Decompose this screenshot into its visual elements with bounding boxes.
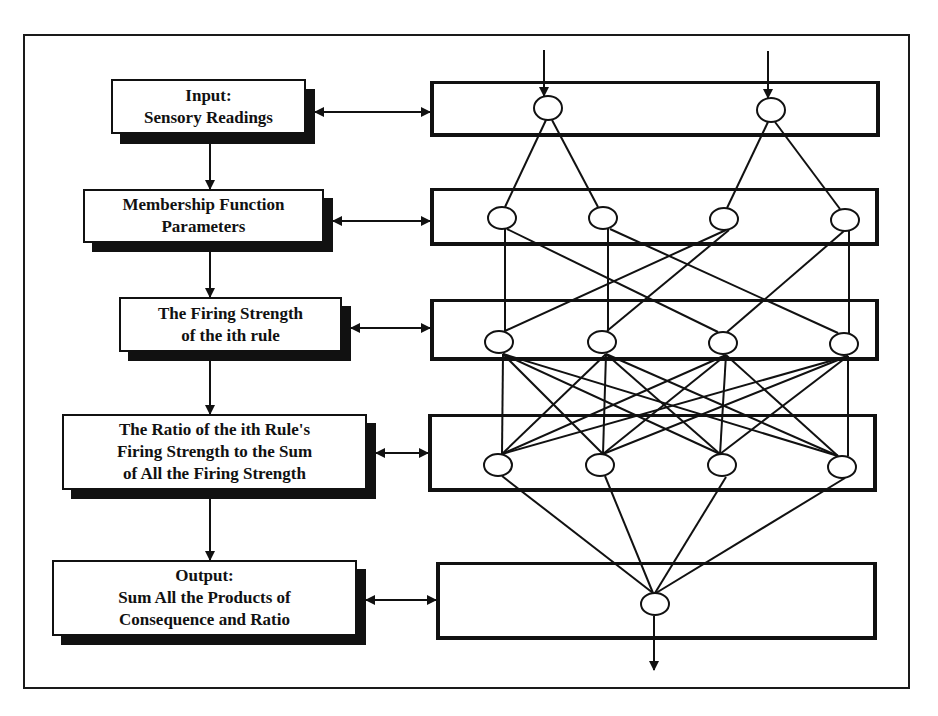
layer-4-node bbox=[586, 454, 614, 476]
layer-1-node bbox=[534, 96, 562, 120]
layer-2-node bbox=[589, 207, 617, 229]
output-node bbox=[641, 593, 669, 615]
layer-3-node bbox=[709, 332, 737, 354]
firing-stage-line-1: The Firing Strength bbox=[158, 303, 303, 325]
output-stage: Output: Sum All the Products of Conseque… bbox=[52, 560, 357, 636]
anfis-diagram: Input: Sensory Readings Membership Funct… bbox=[0, 0, 938, 716]
layer-4-node bbox=[708, 454, 736, 476]
layer-2-node bbox=[488, 207, 516, 229]
input-stage-line-1: Input: bbox=[185, 85, 231, 107]
ratio-stage-line-3: of All the Firing Strength bbox=[123, 463, 306, 485]
ratio-stage-line-2: Firing Strength to the Sum bbox=[117, 441, 312, 463]
layer-2-node bbox=[710, 208, 738, 230]
output-stage-line-3: Consequence and Ratio bbox=[119, 609, 290, 631]
membership-stage-line-2: Parameters bbox=[161, 216, 245, 238]
layer-3-node bbox=[830, 333, 858, 355]
layer-1-box bbox=[430, 81, 880, 137]
layer-3-node bbox=[485, 331, 513, 353]
layer-4-node bbox=[484, 454, 512, 476]
layer-1-node bbox=[757, 98, 785, 122]
input-stage-line-2: Sensory Readings bbox=[144, 107, 273, 129]
input-stage: Input: Sensory Readings bbox=[111, 79, 306, 134]
firing-stage: The Firing Strength of the ith rule bbox=[119, 297, 342, 352]
output-stage-line-1: Output: bbox=[175, 565, 234, 587]
layer-4-node bbox=[828, 456, 856, 478]
firing-stage-line-2: of the ith rule bbox=[181, 325, 280, 347]
layer-3-node bbox=[588, 331, 616, 353]
ratio-stage: The Ratio of the ith Rule's Firing Stren… bbox=[62, 414, 367, 490]
layer-2-node bbox=[831, 209, 859, 231]
membership-stage: Membership Function Parameters bbox=[83, 189, 324, 243]
ratio-stage-line-1: The Ratio of the ith Rule's bbox=[119, 419, 310, 441]
membership-stage-line-1: Membership Function bbox=[123, 194, 285, 216]
output-stage-line-2: Sum All the Products of bbox=[118, 587, 291, 609]
layer-4-box bbox=[428, 414, 877, 492]
